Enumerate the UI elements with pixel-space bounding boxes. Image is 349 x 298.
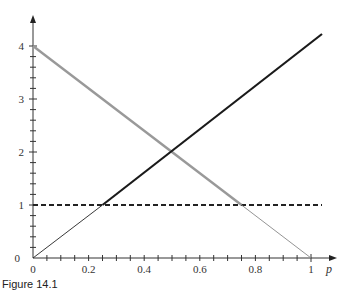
x-axis-label: p	[325, 262, 332, 276]
x-tick-label: 0	[30, 263, 36, 275]
y-tick-label: 2	[19, 146, 25, 158]
x-tick-label: 0.2	[82, 263, 96, 275]
figure-caption: Figure 14.1	[2, 278, 58, 290]
x-tick-label: 1	[308, 263, 314, 275]
x-tick-label: 0.6	[193, 263, 207, 275]
x-axis-arrow-icon	[329, 255, 337, 261]
x-tick-label: 0.4	[137, 263, 151, 275]
series-increasing-thin	[33, 205, 103, 258]
series-decreasing-thick	[33, 46, 242, 205]
series-decreasing-thin	[242, 205, 312, 258]
series-increasing-thick	[103, 34, 323, 205]
y-tick-label: 3	[19, 93, 25, 105]
y-tick-label: 0	[15, 252, 21, 264]
y-axis-arrow-icon	[30, 15, 36, 23]
chart: 0 0.2 0.4 0.6 0.8 1 p 0 1 2 3 4	[0, 0, 349, 298]
y-tick-label: 4	[19, 40, 25, 52]
y-tick-label: 1	[19, 199, 25, 211]
x-tick-label: 0.8	[249, 263, 263, 275]
